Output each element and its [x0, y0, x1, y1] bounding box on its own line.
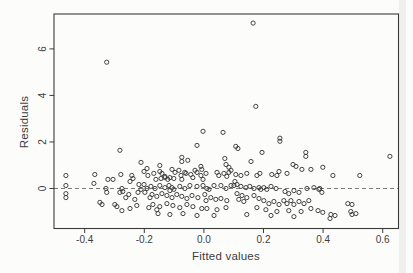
data-point — [204, 171, 208, 175]
x-tick-label: -0.2 — [136, 234, 154, 245]
data-point — [139, 160, 143, 164]
data-point — [320, 190, 324, 194]
data-point — [285, 171, 289, 175]
data-point — [92, 181, 96, 185]
data-point — [240, 193, 244, 197]
x-axis-title: Fitted values — [192, 250, 260, 262]
data-point — [171, 203, 175, 207]
plot-canvas: -0.4-0.20.00.20.40.60246 — [0, 0, 413, 273]
data-point — [158, 163, 162, 167]
data-point — [223, 156, 227, 160]
data-point — [299, 209, 303, 213]
data-point — [147, 206, 151, 210]
data-point — [188, 183, 192, 187]
data-point — [329, 212, 333, 216]
data-point — [255, 206, 259, 210]
data-point — [292, 215, 296, 219]
data-point — [195, 213, 199, 217]
data-point — [152, 171, 156, 175]
data-point — [212, 213, 216, 217]
data-point — [287, 192, 291, 196]
data-point — [328, 216, 332, 220]
data-point — [245, 212, 249, 216]
data-point — [224, 206, 228, 210]
data-point — [160, 192, 164, 196]
y-tick-label: 2 — [38, 139, 49, 145]
data-point — [154, 177, 158, 181]
data-point — [196, 196, 200, 200]
data-point — [260, 150, 264, 154]
data-point — [120, 209, 124, 213]
data-point — [270, 172, 274, 176]
data-point — [245, 196, 249, 200]
data-point — [178, 206, 182, 210]
data-point — [272, 199, 276, 203]
x-tick-label: 0.6 — [376, 234, 390, 245]
data-point — [155, 194, 159, 198]
y-axis-title: Residuals — [18, 96, 30, 148]
y-tick-label: 0 — [38, 185, 49, 191]
data-point — [199, 173, 203, 177]
data-point — [277, 202, 281, 206]
data-point — [142, 182, 146, 186]
data-point — [215, 208, 219, 212]
data-point — [178, 184, 182, 188]
data-point — [249, 159, 253, 163]
data-point — [191, 176, 195, 180]
data-point — [212, 183, 216, 187]
data-point — [275, 209, 279, 213]
data-point — [200, 206, 204, 210]
data-point — [248, 184, 252, 188]
data-point — [204, 199, 208, 203]
data-point — [165, 193, 169, 197]
data-point — [175, 192, 179, 196]
data-point — [214, 197, 218, 201]
data-point — [172, 176, 176, 180]
data-point — [219, 183, 223, 187]
data-point — [111, 177, 115, 181]
data-point — [257, 196, 261, 200]
data-point — [180, 155, 184, 159]
data-point — [191, 205, 195, 209]
data-point — [119, 172, 123, 176]
data-point — [148, 196, 152, 200]
data-point — [219, 196, 223, 200]
data-point — [297, 190, 301, 194]
data-point — [358, 173, 362, 177]
data-point — [346, 202, 350, 206]
data-point — [186, 158, 190, 162]
data-point — [185, 196, 189, 200]
data-point — [151, 202, 155, 206]
data-point — [321, 165, 325, 169]
data-point — [264, 208, 268, 212]
data-point — [262, 199, 266, 203]
y-tick-label: 4 — [38, 92, 49, 98]
data-point — [275, 173, 279, 177]
data-point — [269, 184, 273, 188]
data-point — [105, 60, 109, 64]
data-point — [245, 171, 249, 175]
data-point — [93, 172, 97, 176]
data-point — [124, 196, 128, 200]
data-point — [252, 193, 256, 197]
data-point — [128, 179, 132, 183]
x-tick-label: 0.4 — [316, 234, 330, 245]
data-point — [307, 199, 311, 203]
data-point — [292, 202, 296, 206]
data-point — [143, 190, 147, 194]
data-point — [106, 177, 110, 181]
data-point — [321, 210, 325, 214]
data-point — [285, 202, 289, 206]
data-point — [333, 213, 337, 217]
data-point — [225, 199, 229, 203]
data-point — [142, 169, 146, 173]
data-point — [277, 169, 281, 173]
x-tick-label: -0.4 — [76, 234, 94, 245]
data-point — [251, 21, 255, 25]
data-point — [239, 173, 243, 177]
data-point — [205, 206, 209, 210]
data-point — [237, 197, 241, 201]
data-point — [184, 171, 188, 175]
data-point — [135, 203, 139, 207]
data-point — [180, 194, 184, 198]
